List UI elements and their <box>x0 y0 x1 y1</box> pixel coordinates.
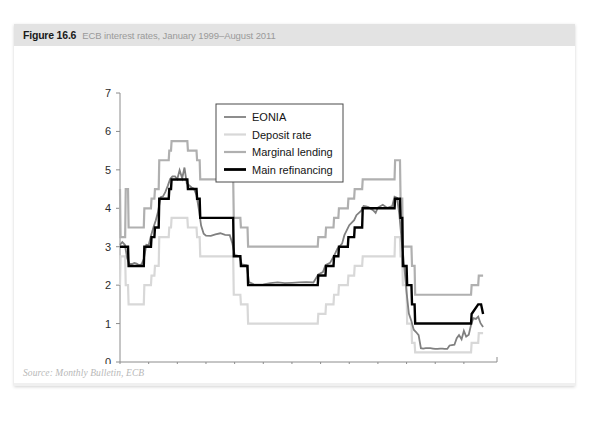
x-axis: Jan-99Jan-00Jan-01Jan-02Jan-03Jan-04Jan-… <box>110 357 497 364</box>
interest-rates-line-chart: 01234567 Jan-99Jan-00Jan-01Jan-02Jan-03J… <box>14 46 575 364</box>
y-tick-label: 7 <box>105 87 111 99</box>
legend-label: Main refinancing <box>252 164 333 176</box>
chart-legend: EONIADeposit rateMarginal lendingMain re… <box>216 104 343 182</box>
legend-label: EONIA <box>252 111 287 123</box>
y-tick-label: 1 <box>105 318 111 330</box>
y-tick-label: 2 <box>105 279 111 291</box>
source-note: Source: Monthly Bulletin, ECB <box>23 368 144 378</box>
legend-label: Deposit rate <box>252 129 311 141</box>
legend-label: Marginal lending <box>252 146 333 158</box>
figure-number: Figure 16.6 <box>23 29 76 41</box>
series-line-main-refinancing <box>120 179 483 323</box>
y-tick-label: 4 <box>105 202 111 214</box>
figure-card: Figure 16.6 ECB interest rates, January … <box>14 24 575 386</box>
y-tick-label: 6 <box>105 125 111 137</box>
series-line-eonia <box>120 168 483 349</box>
y-axis: 01234567 <box>105 87 120 364</box>
figure-header: Figure 16.6 ECB interest rates, January … <box>14 24 575 46</box>
y-tick-label: 3 <box>105 241 111 253</box>
y-tick-label: 5 <box>105 164 111 176</box>
chart-plot-area: 01234567 Jan-99Jan-00Jan-01Jan-02Jan-03J… <box>14 46 575 364</box>
y-tick-label: 0 <box>105 356 111 364</box>
figure-title: ECB interest rates, January 1999–August … <box>82 30 275 41</box>
card-footer-rule <box>14 383 575 386</box>
